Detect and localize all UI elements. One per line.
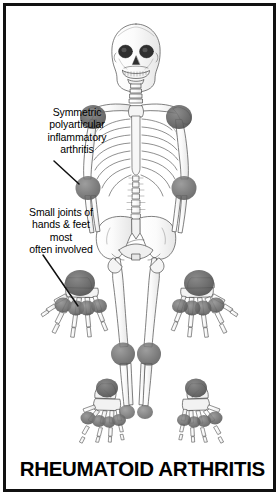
annotation-symmetric-polyarticular: Symmetric polyarticular inflammatory art… xyxy=(33,106,121,156)
left-hand-joint-markers xyxy=(55,270,108,316)
annotation-small-joints: Small joints of hands & feet most often … xyxy=(9,206,113,256)
figure-frame: Symmetric polyarticular inflammatory art… xyxy=(3,3,276,492)
right-hand-joint-markers xyxy=(172,270,225,316)
skull xyxy=(112,24,160,92)
rheumatoid-arthritis-figure: Symmetric polyarticular inflammatory art… xyxy=(0,0,279,495)
cervical-spine xyxy=(130,84,143,103)
leader-line-arthritis xyxy=(54,161,79,184)
right-leg xyxy=(139,258,164,406)
spine xyxy=(127,176,145,220)
figure-title: RHEUMATOID ARTHRITIS xyxy=(6,457,265,481)
knee-markers xyxy=(111,343,161,366)
